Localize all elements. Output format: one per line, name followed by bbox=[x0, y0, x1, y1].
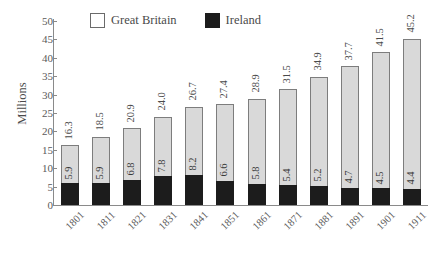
y-axis-tick-label: 20 bbox=[7, 126, 53, 137]
x-axis-tick-label: 1821 bbox=[113, 210, 149, 246]
bar-ireland-label: 6.8 bbox=[125, 163, 136, 176]
bar-ireland-label: 8.2 bbox=[188, 158, 199, 171]
bar-group[interactable]: 28.95.8 bbox=[248, 21, 266, 205]
bar-total-label: 16.3 bbox=[63, 121, 74, 139]
y-axis-tick-label: 10 bbox=[7, 163, 53, 174]
bar-ireland-label: 5.8 bbox=[250, 167, 261, 180]
x-axis-tick-label: 1871 bbox=[268, 210, 304, 246]
bar-total-label: 24.0 bbox=[157, 92, 168, 110]
bar-segment-ireland[interactable] bbox=[92, 183, 110, 205]
bar-ireland-label: 5.2 bbox=[312, 169, 323, 182]
bar-segment-ireland[interactable] bbox=[310, 186, 328, 205]
x-axis-tick-label: 1901 bbox=[362, 210, 398, 246]
bar-total-label: 28.9 bbox=[250, 74, 261, 92]
bar-ireland-label: 4.7 bbox=[344, 171, 355, 184]
x-axis-tick-label: 1811 bbox=[81, 210, 117, 246]
bar-ireland-label: 6.6 bbox=[219, 164, 230, 177]
bar-total-label: 18.5 bbox=[94, 113, 105, 131]
population-stacked-bar-chart: Great Britain Ireland Millions 051015202… bbox=[0, 0, 436, 254]
bar-group[interactable]: 16.35.9 bbox=[61, 21, 79, 205]
y-axis-tick-label: 5 bbox=[7, 181, 53, 192]
bar-segment-ireland[interactable] bbox=[154, 176, 172, 205]
bar-group[interactable]: 27.46.6 bbox=[216, 21, 234, 205]
y-axis-tick bbox=[53, 205, 57, 206]
bar-ireland-label: 4.5 bbox=[375, 171, 386, 184]
bar-segment-ireland[interactable] bbox=[61, 183, 79, 205]
y-axis-tick-label: 40 bbox=[7, 52, 53, 63]
plot-area: 16.35.918.55.920.96.824.07.826.78.227.46… bbox=[54, 21, 428, 205]
bar-total-label: 31.5 bbox=[281, 65, 292, 83]
y-axis-tick-label: 50 bbox=[7, 16, 53, 27]
x-axis-tick-label: 1851 bbox=[206, 210, 242, 246]
bar-segment-ireland[interactable] bbox=[248, 184, 266, 205]
x-axis-line bbox=[53, 205, 428, 206]
y-axis-tick-label: 25 bbox=[7, 108, 53, 119]
bar-total-label: 41.5 bbox=[375, 28, 386, 46]
bar-group[interactable]: 24.07.8 bbox=[154, 21, 172, 205]
bar-group[interactable]: 18.55.9 bbox=[92, 21, 110, 205]
bar-segment-ireland[interactable] bbox=[341, 188, 359, 205]
y-axis-tick-label: 35 bbox=[7, 71, 53, 82]
bar-segment-ireland[interactable] bbox=[279, 185, 297, 205]
y-axis-tick-label: 30 bbox=[7, 89, 53, 100]
bar-ireland-label: 4.4 bbox=[406, 172, 417, 185]
bar-total-label: 37.7 bbox=[344, 42, 355, 60]
bar-group[interactable]: 20.96.8 bbox=[123, 21, 141, 205]
bar-group[interactable]: 34.95.2 bbox=[310, 21, 328, 205]
bar-segment-ireland[interactable] bbox=[123, 180, 141, 205]
bar-segment-ireland[interactable] bbox=[372, 188, 390, 205]
bar-group[interactable]: 45.24.4 bbox=[403, 21, 421, 205]
bar-segment-ireland[interactable] bbox=[216, 181, 234, 205]
y-axis-tick-label: 45 bbox=[7, 34, 53, 45]
bar-ireland-label: 5.4 bbox=[281, 168, 292, 181]
y-axis-tick-label: 0 bbox=[7, 200, 53, 211]
bar-ireland-label: 7.8 bbox=[157, 159, 168, 172]
x-axis-tick-label: 1831 bbox=[144, 210, 180, 246]
bar-ireland-label: 5.9 bbox=[63, 166, 74, 179]
bar-group[interactable]: 26.78.2 bbox=[185, 21, 203, 205]
x-axis-tick-label: 1911 bbox=[393, 210, 429, 246]
bar-group[interactable]: 37.74.7 bbox=[341, 21, 359, 205]
bar-group[interactable]: 31.55.4 bbox=[279, 21, 297, 205]
x-axis-tick-label: 1801 bbox=[50, 210, 86, 246]
bar-segment-ireland[interactable] bbox=[185, 175, 203, 205]
x-axis-tick-label: 1881 bbox=[300, 210, 336, 246]
bar-total-label: 20.9 bbox=[125, 104, 136, 122]
y-axis-tick-label: 15 bbox=[7, 144, 53, 155]
bar-segment-great-britain[interactable] bbox=[341, 66, 359, 205]
bar-ireland-label: 5.9 bbox=[94, 166, 105, 179]
bar-total-label: 27.4 bbox=[219, 80, 230, 98]
x-axis-tick-label: 1861 bbox=[237, 210, 273, 246]
bar-total-label: 26.7 bbox=[188, 82, 199, 100]
x-axis-tick-label: 1841 bbox=[175, 210, 211, 246]
bar-segment-ireland[interactable] bbox=[403, 189, 421, 205]
bar-total-label: 34.9 bbox=[312, 52, 323, 70]
bar-total-label: 45.2 bbox=[406, 14, 417, 32]
x-axis-tick-label: 1891 bbox=[331, 210, 367, 246]
bar-group[interactable]: 41.54.5 bbox=[372, 21, 390, 205]
